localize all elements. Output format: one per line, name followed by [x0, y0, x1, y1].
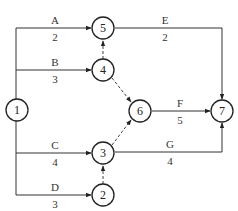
activity-d-name: D	[51, 181, 59, 193]
activity-f: F 5	[152, 97, 210, 126]
node-3: 3	[92, 142, 114, 164]
node-4: 4	[92, 59, 114, 81]
activity-g-duration: 4	[167, 155, 173, 167]
node-1-label: 1	[14, 103, 20, 117]
activity-b-duration: 3	[52, 73, 58, 85]
node-2-label: 2	[100, 188, 106, 202]
activity-b: B 3	[16, 56, 91, 85]
dummy-4-to-6	[112, 78, 131, 102]
node-7-label: 7	[219, 104, 225, 118]
node-4-label: 4	[100, 63, 106, 77]
activity-a-duration: 2	[52, 31, 58, 43]
activity-d-duration: 3	[52, 198, 58, 210]
node-1: 1	[6, 99, 28, 121]
activity-g: G 4	[115, 123, 222, 167]
activity-f-duration: 5	[177, 114, 183, 126]
activity-a: A 2	[16, 14, 91, 43]
activity-g-name: G	[166, 138, 174, 150]
dummy-3-to-6	[112, 120, 131, 145]
node-3-label: 3	[100, 146, 106, 160]
activity-f-name: F	[177, 97, 183, 109]
node-7: 7	[211, 100, 233, 122]
activity-a-name: A	[51, 14, 59, 26]
activity-e: E 2	[115, 14, 222, 99]
activity-e-duration: 2	[162, 31, 168, 43]
node-5-label: 5	[100, 21, 106, 35]
activity-c-duration: 4	[52, 156, 58, 168]
activity-e-name: E	[162, 14, 169, 26]
activity-c-name: C	[51, 139, 58, 151]
node-6-label: 6	[137, 104, 143, 118]
activity-c: C 4	[16, 139, 91, 168]
node-6: 6	[129, 100, 151, 122]
activity-b-name: B	[51, 56, 58, 68]
node-5: 5	[92, 17, 114, 39]
activity-d: D 3	[16, 181, 91, 210]
network-diagram: A 2 B 3 C 4 D 3 E 2 F 5 G 4	[0, 0, 238, 211]
node-2: 2	[92, 184, 114, 206]
